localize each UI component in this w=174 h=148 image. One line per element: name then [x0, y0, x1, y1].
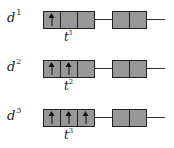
cell-arrow — [43, 11, 61, 29]
cell — [77, 11, 95, 29]
t-label: t3 — [64, 127, 73, 142]
up-arrow-icon — [52, 113, 53, 124]
cell — [112, 109, 130, 127]
up-arrow-icon — [86, 113, 87, 124]
connector-line — [146, 68, 165, 69]
cell — [129, 109, 147, 127]
diagram-row-3: d3 t3 — [0, 98, 174, 146]
up-arrow-icon — [52, 64, 53, 75]
d-label: d1 — [7, 8, 21, 25]
connector-line — [94, 117, 112, 118]
connector-line — [146, 19, 165, 20]
up-arrow-icon — [52, 15, 53, 26]
connector-line — [94, 68, 112, 69]
cell-arrow — [60, 109, 78, 127]
up-arrow-icon — [69, 113, 70, 124]
cell — [112, 11, 130, 29]
diagram-row-1: d1 t1 — [0, 0, 174, 48]
diagram-row-2: d2 t2 — [0, 49, 174, 97]
cell-arrow — [77, 109, 95, 127]
cell-arrow — [60, 60, 78, 78]
d-label: d2 — [7, 57, 21, 74]
cell — [129, 60, 147, 78]
connector-line — [94, 19, 112, 20]
cell — [60, 11, 78, 29]
cell — [77, 60, 95, 78]
cell — [129, 11, 147, 29]
up-arrow-icon — [69, 64, 70, 75]
connector-line — [146, 117, 165, 118]
cell-arrow — [43, 60, 61, 78]
t-label: t1 — [64, 29, 73, 44]
t-label: t2 — [64, 78, 73, 93]
cell-arrow — [43, 109, 61, 127]
cell — [112, 60, 130, 78]
d-label: d3 — [7, 106, 21, 123]
